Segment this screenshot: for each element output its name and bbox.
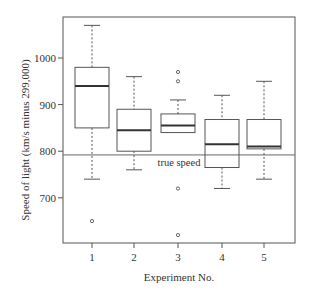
outlier-point (90, 219, 93, 222)
iqr-box (247, 120, 281, 149)
reference-line-label: true speed (158, 157, 202, 168)
box-experiment-3 (161, 70, 195, 236)
y-tick-label: 700 (40, 192, 57, 204)
box-experiment-1 (75, 25, 109, 222)
x-tick-label: 4 (219, 251, 225, 263)
x-tick-label: 1 (89, 251, 95, 263)
y-axis: 7008009001000 (34, 52, 63, 204)
x-axis-label: Experiment No. (144, 271, 214, 283)
true-speed-reference-line: true speed (63, 155, 295, 168)
boxes (75, 25, 281, 236)
iqr-box (161, 114, 195, 133)
x-axis: 12345 (89, 243, 267, 263)
box-experiment-2 (117, 77, 151, 170)
outlier-point (176, 80, 179, 83)
outlier-point (176, 233, 179, 236)
box-experiment-5 (247, 81, 281, 179)
y-tick-label: 800 (40, 145, 57, 157)
box-plot-chart: 7008009001000 12345 true speed (0, 0, 313, 303)
outlier-point (176, 187, 179, 190)
y-axis-label: Speed of light (km/s minus 299,000) (19, 59, 31, 220)
plot-area-border (63, 17, 295, 243)
box-experiment-4 (205, 95, 239, 188)
x-tick-label: 3 (175, 251, 181, 263)
iqr-box (75, 67, 109, 128)
y-tick-label: 1000 (34, 52, 57, 64)
x-tick-label: 5 (261, 251, 267, 263)
outlier-point (176, 70, 179, 73)
y-tick-label: 900 (40, 99, 57, 111)
x-tick-label: 2 (131, 251, 137, 263)
